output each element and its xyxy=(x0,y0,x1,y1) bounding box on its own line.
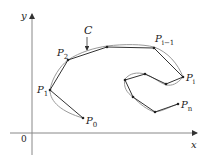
approximating-polygon xyxy=(50,47,183,118)
origin-label: 0 xyxy=(21,134,27,144)
label-pi: Pi xyxy=(185,72,196,86)
label-pi-minus-1: Pi−1 xyxy=(154,33,174,47)
label-p2: P2 xyxy=(56,47,68,61)
x-axis-label: x xyxy=(191,139,197,150)
curve-label-c: C xyxy=(84,24,93,37)
y-axis-label: y xyxy=(20,10,27,21)
label-pn: Pn xyxy=(180,99,193,113)
diagram-svg: x y 0 C P0 P1 P2 Pi−1 Pi xyxy=(0,0,209,162)
label-p0: P0 xyxy=(85,115,97,129)
curve-polygon-diagram: x y 0 C P0 P1 P2 Pi−1 Pi xyxy=(0,0,209,162)
label-p1: P1 xyxy=(36,84,48,98)
